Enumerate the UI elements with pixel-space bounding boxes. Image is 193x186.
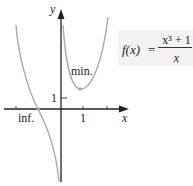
inflection-point [36,107,40,111]
minimum-label: min. [71,65,93,77]
formula-lhs: f(x) [122,42,140,58]
y-axis-label: y [50,3,55,15]
graph-canvas [0,0,193,186]
y-axis-arrow-icon [58,9,65,19]
formula-numerator: x³ + 1 [160,33,193,48]
x-axis-label: x [122,112,127,124]
x-tick-label: 1 [80,112,86,124]
inflection-label: inf. [18,112,34,124]
y-tick-label: 1 [51,92,57,104]
formula-denominator: x [160,51,193,66]
fraction-bar [158,47,192,48]
minimum-point [78,87,82,91]
curve-right-branch [63,17,108,89]
formula-equals: = [148,42,155,58]
